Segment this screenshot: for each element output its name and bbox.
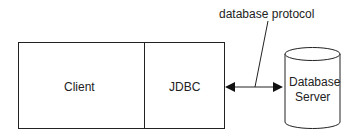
client-label: Client — [64, 80, 95, 94]
label-leader-line — [255, 21, 268, 87]
server-label-line1: Database — [289, 75, 340, 89]
arrowhead-right-icon — [273, 82, 283, 92]
connection-label: database protocol — [219, 7, 314, 21]
jdbc-label: JDBC — [169, 80, 200, 94]
server-label-line2: Server — [295, 90, 330, 104]
arrowhead-left-icon — [225, 82, 235, 92]
